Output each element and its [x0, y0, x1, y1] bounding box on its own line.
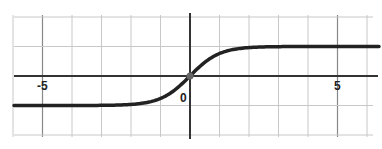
function-plot: [0, 0, 382, 149]
x-tick-label-0: 0: [180, 91, 187, 105]
axes: [14, 13, 378, 139]
origin-point: [187, 73, 194, 80]
x-tick-label-5: 5: [334, 79, 341, 93]
x-tick-label-neg5: -5: [37, 79, 48, 93]
